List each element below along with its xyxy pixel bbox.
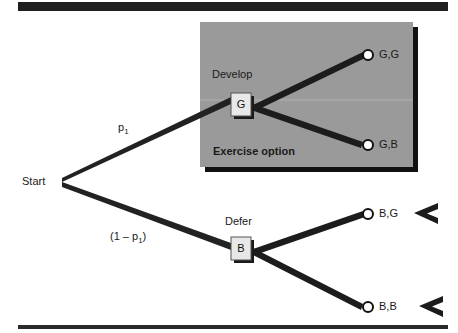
action-label-develop: Develop	[212, 69, 252, 80]
one-minus-p1-suffix: )	[143, 230, 147, 242]
edge-b-to-bb	[251, 248, 363, 310]
terminal-node-bb[interactable]	[363, 302, 373, 312]
node-b-letter: B	[231, 243, 251, 254]
terminal-node-bg[interactable]	[363, 209, 373, 219]
chevron-icon-bg	[414, 203, 438, 224]
probability-label-p1: p1	[118, 122, 129, 136]
terminal-node-gg[interactable]	[363, 50, 373, 60]
panel-caption-exercise-option: Exercise option	[213, 146, 295, 157]
terminal-label-bg: B,G	[379, 208, 398, 219]
edge-b-to-bg	[253, 211, 365, 255]
edge-start-to-b	[62, 182, 231, 250]
terminal-label-gg: G,G	[379, 49, 399, 60]
top-rule	[18, 2, 448, 11]
terminal-label-gb: G,B	[379, 139, 398, 150]
action-label-defer: Defer	[225, 216, 252, 227]
figure-canvas: Start Develop Defer Exercise option G B …	[0, 0, 458, 333]
p1-subscript: 1	[124, 127, 128, 136]
terminal-node-gb[interactable]	[363, 140, 373, 150]
node-g-letter: G	[231, 99, 251, 110]
root-label-start: Start	[22, 176, 45, 187]
chevron-icon-bb	[419, 296, 443, 317]
one-minus-p1-prefix: (1 – p	[110, 230, 138, 242]
probability-label-one-minus-p1: (1 – p1)	[110, 231, 146, 245]
bottom-rule	[18, 325, 448, 329]
terminal-label-bb: B,B	[379, 301, 397, 312]
